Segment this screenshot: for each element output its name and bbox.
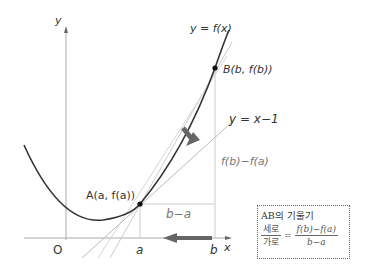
x-axis-arrow-icon bbox=[225, 236, 232, 240]
rhs-denominator: b−a bbox=[305, 236, 328, 248]
vertical-segment-label: f(b)−f(a) bbox=[221, 155, 269, 168]
equals-sign: = bbox=[284, 231, 292, 241]
rotation-arrow-icon bbox=[183, 128, 200, 146]
point-a-dot bbox=[137, 201, 142, 206]
diagram-canvas: y x O a b y = f(x) B(b, f(b)) A(a, f(a))… bbox=[0, 0, 371, 275]
tick-b-label: b bbox=[210, 243, 218, 257]
point-b-dot bbox=[212, 65, 217, 70]
leftward-arrow-icon bbox=[163, 233, 212, 243]
y-axis-label: y bbox=[55, 14, 62, 27]
rhs-numerator: f(b)−f(a) bbox=[295, 224, 338, 236]
point-b-label: B(b, f(b)) bbox=[223, 63, 273, 76]
rhs-fraction: f(b)−f(a) b−a bbox=[295, 224, 338, 248]
slope-formula-box: AB의 기울기 세로 가로 = f(b)−f(a) b−a bbox=[257, 205, 350, 259]
y-axis-arrow-icon bbox=[64, 26, 68, 33]
curve-label: y = f(x) bbox=[190, 22, 232, 35]
formula-title: AB의 기울기 bbox=[261, 208, 346, 222]
lhs-denominator: 가로 bbox=[261, 236, 281, 248]
secant-line-1 bbox=[110, 42, 232, 258]
x-axis-label: x bbox=[224, 241, 231, 254]
horizontal-segment-label: b−a bbox=[166, 207, 191, 221]
lhs-fraction: 세로 가로 bbox=[261, 224, 281, 248]
lhs-numerator: 세로 bbox=[261, 224, 281, 236]
tick-a-label: a bbox=[136, 243, 143, 257]
point-a-label: A(a, f(a)) bbox=[86, 189, 135, 202]
tangent-line-label: y = x−1 bbox=[229, 112, 279, 126]
formula-equation: 세로 가로 = f(b)−f(a) b−a bbox=[261, 224, 346, 248]
origin-label: O bbox=[53, 243, 62, 257]
